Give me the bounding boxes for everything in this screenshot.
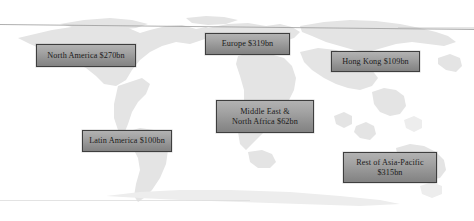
callout-europe[interactable]: Europe $319bn: [205, 33, 290, 55]
callout-label: Middle East & North Africa $62bn: [232, 107, 298, 126]
callout-middle-east-north-africa[interactable]: Middle East & North Africa $62bn: [216, 100, 314, 133]
callout-hong-kong[interactable]: Hong Kong $109bn: [331, 51, 420, 72]
callout-rest-of-asia-pacific[interactable]: Rest of Asia-Pacific $315bn: [343, 152, 437, 183]
callout-label: Europe $319bn: [222, 39, 274, 49]
world-map-figure: North America $270bn Europe $319bn Hong …: [0, 0, 474, 221]
callout-label: North America $270bn: [47, 51, 125, 61]
callout-north-america[interactable]: North America $270bn: [36, 44, 136, 67]
callout-label: Hong Kong $109bn: [342, 57, 409, 67]
callout-label: Rest of Asia-Pacific $315bn: [356, 158, 423, 177]
callout-label: Latin America $100bn: [89, 136, 165, 146]
callout-latin-america[interactable]: Latin America $100bn: [82, 130, 172, 152]
